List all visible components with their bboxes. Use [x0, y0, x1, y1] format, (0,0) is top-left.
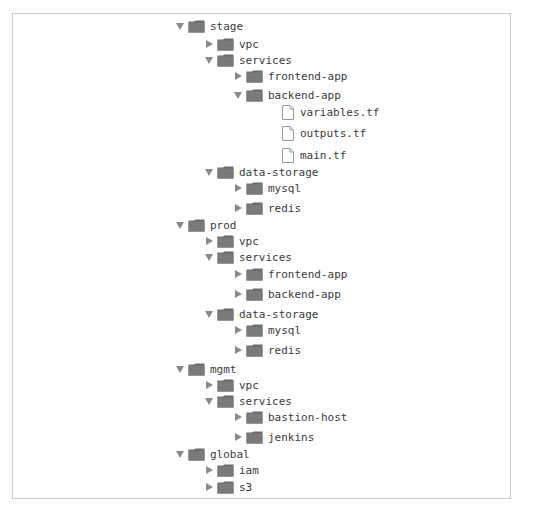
folder-icon — [217, 308, 234, 321]
triangle-down-icon[interactable] — [204, 252, 214, 262]
triangle-right-icon[interactable] — [204, 236, 214, 246]
folder-icon — [217, 235, 234, 248]
folder-name: mysql — [268, 182, 301, 195]
folder-icon — [217, 166, 234, 179]
triangle-down-icon[interactable] — [204, 309, 214, 319]
folder-item[interactable]: redis — [233, 199, 301, 217]
folder-icon — [246, 411, 263, 424]
folder-item[interactable]: services — [204, 248, 292, 266]
folder-item[interactable]: backend-app — [233, 285, 341, 303]
file-icon — [282, 126, 294, 141]
folder-item[interactable]: redis — [233, 341, 301, 359]
folder-icon — [188, 448, 205, 461]
folder-name: services — [239, 251, 292, 264]
triangle-right-icon[interactable] — [233, 203, 243, 213]
file-icon — [282, 105, 294, 120]
folder-item[interactable]: s3 — [204, 478, 252, 496]
triangle-down-icon[interactable] — [204, 167, 214, 177]
triangle-down-icon[interactable] — [175, 220, 185, 230]
folder-icon — [188, 20, 205, 33]
folder-icon — [188, 363, 205, 376]
folder-name: data-storage — [239, 308, 318, 321]
folder-name: global — [210, 448, 250, 461]
file-icon — [282, 148, 294, 163]
folder-icon — [246, 70, 263, 83]
folder-icon — [217, 395, 234, 408]
folder-name: services — [239, 54, 292, 67]
folder-name: mysql — [268, 324, 301, 337]
folder-name: redis — [268, 202, 301, 215]
triangle-down-icon[interactable] — [175, 21, 185, 31]
folder-icon — [217, 54, 234, 67]
folder-name: vpc — [239, 235, 259, 248]
folder-name: backend-app — [268, 89, 341, 102]
folder-icon — [246, 182, 263, 195]
folder-icon — [188, 219, 205, 232]
folder-item[interactable]: backend-app — [233, 86, 341, 104]
folder-name: backend-app — [268, 288, 341, 301]
triangle-right-icon[interactable] — [233, 432, 243, 442]
folder-name: jenkins — [268, 431, 314, 444]
folder-icon — [246, 288, 263, 301]
folder-name: vpc — [239, 38, 259, 51]
folder-icon — [217, 481, 234, 494]
folder-name: data-storage — [239, 166, 318, 179]
file-name: outputs.tf — [300, 127, 366, 140]
folder-name: redis — [268, 344, 301, 357]
folder-item[interactable]: jenkins — [233, 428, 314, 446]
folder-name: bastion-host — [268, 411, 347, 424]
triangle-right-icon[interactable] — [233, 269, 243, 279]
triangle-right-icon[interactable] — [204, 465, 214, 475]
triangle-down-icon[interactable] — [204, 55, 214, 65]
folder-icon — [217, 251, 234, 264]
file-name: main.tf — [300, 149, 346, 162]
triangle-right-icon[interactable] — [233, 325, 243, 335]
folder-icon — [246, 202, 263, 215]
file-item[interactable]: outputs.tf — [282, 124, 366, 142]
file-item[interactable]: variables.tf — [282, 103, 379, 121]
folder-name: vpc — [239, 379, 259, 392]
triangle-right-icon[interactable] — [204, 39, 214, 49]
triangle-right-icon[interactable] — [233, 289, 243, 299]
folder-name: mgmt — [210, 363, 237, 376]
triangle-right-icon[interactable] — [204, 482, 214, 492]
folder-item[interactable]: frontend-app — [233, 265, 347, 283]
folder-name: stage — [210, 20, 243, 33]
folder-item[interactable]: stage — [175, 17, 243, 35]
folder-item[interactable]: iam — [204, 461, 259, 479]
folder-icon — [217, 38, 234, 51]
folder-item[interactable]: frontend-app — [233, 67, 347, 85]
triangle-right-icon[interactable] — [233, 183, 243, 193]
folder-name: services — [239, 395, 292, 408]
folder-icon — [246, 89, 263, 102]
folder-name: frontend-app — [268, 268, 347, 281]
folder-name: s3 — [239, 481, 252, 494]
folder-name: iam — [239, 464, 259, 477]
triangle-down-icon[interactable] — [175, 364, 185, 374]
file-item[interactable]: main.tf — [282, 146, 346, 164]
triangle-down-icon[interactable] — [233, 90, 243, 100]
folder-icon — [217, 464, 234, 477]
triangle-right-icon[interactable] — [233, 71, 243, 81]
folder-icon — [246, 344, 263, 357]
triangle-down-icon[interactable] — [175, 449, 185, 459]
folder-name: prod — [210, 219, 237, 232]
folder-item[interactable]: mysql — [233, 321, 301, 339]
folder-icon — [217, 379, 234, 392]
folder-name: frontend-app — [268, 70, 347, 83]
triangle-right-icon[interactable] — [204, 380, 214, 390]
triangle-down-icon[interactable] — [204, 396, 214, 406]
folder-icon — [246, 324, 263, 337]
folder-icon — [246, 431, 263, 444]
folder-icon — [246, 268, 263, 281]
triangle-right-icon[interactable] — [233, 345, 243, 355]
folder-item[interactable]: mysql — [233, 179, 301, 197]
triangle-right-icon[interactable] — [233, 412, 243, 422]
folder-item[interactable]: bastion-host — [233, 408, 347, 426]
file-name: variables.tf — [300, 106, 379, 119]
